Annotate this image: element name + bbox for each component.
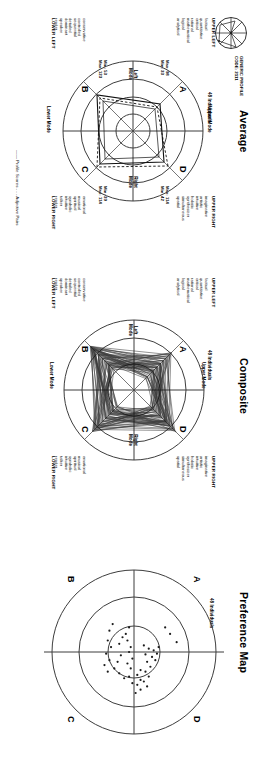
preference-map-point (143, 680, 145, 682)
preference-map-point (118, 643, 120, 645)
preference-map-point (108, 659, 110, 661)
preference-map-point (130, 667, 132, 669)
wordlist-lower-left-comp: conservativecontrolled sequentialdetaile… (54, 278, 86, 302)
panel-preference-map: Preference Map 48 Individuals A D B C (0, 520, 266, 777)
preference-map-point (146, 685, 148, 687)
preference-map-point (112, 623, 114, 625)
herrmann-circle-star-icon (214, 16, 248, 50)
preference-map-point (148, 648, 150, 650)
preference-map-point (120, 654, 122, 656)
wordlist-upper-right-comp: imaginativeartistic intuitiveholistic sy… (176, 456, 208, 481)
preference-map-point (158, 646, 160, 648)
corner-head-upper-left-avg: UPPER LEFT (211, 18, 216, 47)
panel-title-preference-map: Preference Map (238, 592, 250, 673)
preference-map-point (126, 662, 128, 664)
preference-map-point (164, 626, 166, 628)
preference-map-point (103, 664, 105, 666)
preference-map-point (169, 633, 171, 635)
wordlist-upper-left-comp: factualquantitative criticalrational mat… (176, 278, 208, 303)
mode-lower-avg: Lower Mode (46, 106, 51, 133)
preference-map-point (107, 639, 109, 641)
preference-map-point (151, 656, 153, 658)
preference-map-point (135, 692, 137, 694)
preference-map-point (154, 659, 156, 661)
preference-map-point (126, 639, 128, 641)
preference-map-point (153, 649, 155, 651)
wordlist-lower-left-avg: conservativecontrolled sequentialdetaile… (54, 18, 86, 42)
preference-map-chart (34, 566, 234, 738)
wordlist-upper-right-avg: imaginativeartistic intuitiveholistic sy… (176, 196, 208, 221)
panel-average: Average GENERIC PROFILE CODE: 2111 48 In… (0, 0, 266, 262)
preference-map-point (139, 679, 141, 681)
preference-map-point (130, 646, 132, 648)
panel-title-average: Average (238, 110, 250, 152)
wordlist-lower-right-comp: emotionalmusical spiritualsymbolic intui… (54, 456, 86, 474)
preference-map-point (143, 644, 145, 646)
preference-map-point (176, 641, 178, 643)
preference-map-point (125, 633, 127, 635)
preference-map-point (107, 671, 109, 673)
corner-head-upper-left-comp: UPPER LEFT (211, 278, 216, 307)
panel-title-composite: Composite (238, 358, 250, 414)
preference-map-point (117, 661, 119, 663)
wordlist-lower-right-avg: emotionalmusical spiritualsymbolic intui… (54, 196, 86, 214)
chart-legend: —— Profile Scores - - - Adjective Pairs (15, 150, 20, 225)
preference-map-point (136, 684, 138, 686)
preference-map-point (136, 674, 138, 676)
preference-map-point (105, 653, 107, 655)
wordlist-upper-left-avg: factualquantitative criticalrational mat… (176, 18, 208, 43)
preference-map-point (118, 672, 120, 674)
composite-radial-chart (58, 324, 210, 456)
preference-map-point (139, 689, 141, 691)
preference-map-point (121, 636, 123, 638)
corner-head-upper-right-comp: UPPER RIGHT (211, 456, 216, 488)
preference-map-point (139, 669, 141, 671)
mode-lower-comp: Lower Mode (49, 362, 54, 389)
profile-code-label: GENERIC PROFILE (239, 56, 244, 96)
preference-map-point (156, 653, 158, 655)
preference-map-point (113, 667, 115, 669)
preference-map-point (148, 676, 150, 678)
panel-composite: Composite 48 Individuals UPPER LEFT UPPE… (0, 262, 266, 520)
preference-map-point (110, 646, 112, 648)
preference-map-point (123, 677, 125, 679)
preference-map-point (146, 661, 148, 663)
preference-map-point (128, 676, 130, 678)
preference-map-point (144, 653, 146, 655)
report-page: Average GENERIC PROFILE CODE: 2111 48 In… (0, 0, 266, 777)
preference-map-point (144, 671, 146, 673)
preference-map-point (131, 657, 133, 659)
preference-map-point (149, 666, 151, 668)
preference-map-point (131, 682, 133, 684)
preference-map-point (128, 626, 130, 628)
corner-head-upper-right-avg: UPPER RIGHT (211, 196, 216, 228)
preference-map-point (128, 651, 130, 653)
average-radial-chart (58, 66, 208, 196)
preference-map-point (108, 630, 110, 632)
